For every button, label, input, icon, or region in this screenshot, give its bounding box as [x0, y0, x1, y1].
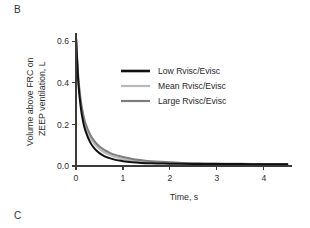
- x-tick-label: 2: [168, 173, 173, 183]
- figure-panel-b: B C 0.00.20.40.6 01234 Volume above FRC …: [0, 0, 310, 228]
- panel-label-c: C: [14, 210, 21, 221]
- y-tick-label: 0.4: [57, 78, 69, 88]
- legend-label: Low Rvisc/Evisc: [158, 66, 221, 76]
- y-tick-label: 0.0: [57, 161, 69, 171]
- x-tick-label: 1: [121, 173, 126, 183]
- y-tick-label: 0.2: [57, 120, 69, 130]
- legend-label: Large Rvisc/Evisc: [158, 96, 227, 106]
- x-ticks-group: 01234: [74, 166, 267, 183]
- x-tick-label: 0: [74, 173, 79, 183]
- y-ticks-group: 0.00.20.40.6: [57, 36, 76, 171]
- x-axis-title: Time, s: [170, 192, 199, 202]
- chart-legend: Low Rvisc/EviscMean Rvisc/EviscLarge Rvi…: [121, 66, 227, 106]
- panel-label-b: B: [14, 4, 21, 15]
- legend-label: Mean Rvisc/Evisc: [158, 81, 227, 91]
- line-chart: 0.00.20.40.6 01234 Volume above FRC on Z…: [0, 0, 310, 228]
- y-axis-title-line1: Volume above FRC on: [25, 57, 35, 146]
- y-tick-label: 0.6: [57, 36, 69, 46]
- y-axis-title-line2: ZEEP ventilation, L: [37, 61, 47, 136]
- y-axis-title: Volume above FRC on ZEEP ventilation, L: [25, 57, 47, 146]
- x-tick-label: 4: [261, 173, 266, 183]
- x-tick-label: 3: [214, 173, 219, 183]
